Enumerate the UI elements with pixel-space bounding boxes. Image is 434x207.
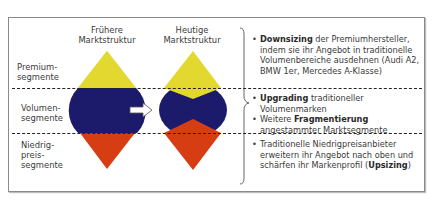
bullet-upgrading: Upgrading traditioneller Volumenmarken W… [252,93,420,135]
bullet-item: Weitere Fragmentierung angestammter Mark… [252,114,420,135]
bullet-text: ) [408,160,411,170]
bullet-item: Traditionelle Niedrigpreisanbieter erwei… [252,139,420,171]
divider-premium-volume [12,88,422,89]
bullet-text: angestammter Marktsegmente [260,125,387,135]
brace-icon [240,28,249,184]
bullet-downsizing: Downsizing der Premiumhersteller, indem … [252,34,420,76]
bullet-keyword: Upgrading [260,93,308,103]
bullet-keyword: Downsizing [260,34,313,44]
bullet-item: Downsizing der Premiumhersteller, indem … [252,34,420,76]
before-low-triangle [80,133,135,169]
bullet-upsizing: Traditionelle Niedrigpreisanbieter erwei… [252,139,420,171]
bullet-keyword: Fragmentierung [294,114,368,124]
bullet-keyword: Upsizing [368,160,407,170]
bullet-text: Weitere [260,114,294,124]
bullet-item: Upgrading traditioneller Volumenmarken [252,93,420,114]
